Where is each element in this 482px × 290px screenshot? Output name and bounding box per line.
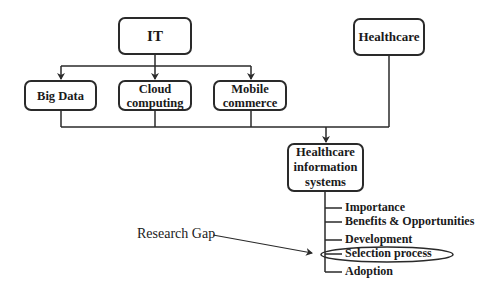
node-his-line1: Healthcare <box>296 145 355 160</box>
node-big-data: Big Data <box>24 80 97 111</box>
node-his-line2: information <box>294 160 358 175</box>
node-big-data-label: Big Data <box>37 89 84 103</box>
aspect-selection-process: Selection process <box>345 247 432 260</box>
node-healthcare: Healthcare <box>353 18 425 56</box>
aspect-development: Development <box>345 233 412 246</box>
node-it-label: IT <box>147 29 163 43</box>
node-cloud-line2: computing <box>127 96 184 110</box>
research-gap-label: Research Gap <box>137 226 215 242</box>
node-mobile-line2: commerce <box>223 96 278 110</box>
node-healthcare-label: Healthcare <box>358 30 419 44</box>
aspect-benefits-opportunities: Benefits & Opportunities <box>345 215 474 228</box>
node-it: IT <box>118 17 192 55</box>
node-his-line3: systems <box>305 175 346 190</box>
aspect-importance: Importance <box>345 201 405 214</box>
research-gap-arrow <box>213 235 312 253</box>
node-mobile-line1: Mobile <box>231 82 269 96</box>
node-healthcare-information-systems: Healthcare information systems <box>287 143 364 192</box>
node-cloud-computing: Cloud computing <box>118 80 192 111</box>
node-cloud-line1: Cloud <box>139 82 172 96</box>
node-mobile-commerce: Mobile commerce <box>213 80 287 111</box>
aspect-adoption: Adoption <box>345 265 393 278</box>
